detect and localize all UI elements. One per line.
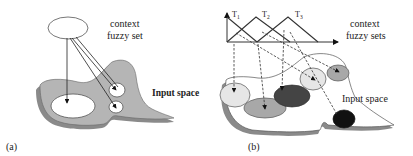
set-label-t3: T3	[295, 10, 303, 20]
cluster-dark-center	[274, 85, 310, 107]
context-fuzzy-set-ellipse	[48, 17, 88, 39]
context-label-b-line2: fuzzy sets	[346, 30, 386, 41]
context-label-b-line1: context	[350, 18, 380, 29]
panel-b-label: (b)	[248, 141, 260, 153]
panel-a: context fuzzy set Input space (a)	[6, 17, 199, 153]
context-label-a-line2: fuzzy set	[107, 30, 143, 41]
panel-a-label: (a)	[6, 141, 17, 153]
fuzzy-set-t2	[227, 17, 290, 42]
cluster-light-left	[220, 83, 250, 107]
context-label-a-line1: context	[110, 18, 140, 29]
large-subset-ellipse	[51, 94, 95, 118]
input-space-label-a: Input space	[152, 88, 199, 98]
set-label-t2: T2	[262, 10, 270, 20]
dashed-arrow-4	[236, 33, 315, 80]
input-space-label-b: Input space	[342, 93, 388, 104]
set-label-t1: T1	[232, 10, 240, 20]
panel-b: T1 T2 T3 context fuzzy sets Input space …	[220, 10, 394, 153]
small-subset-ellipse-2	[109, 101, 123, 113]
diagram-canvas: context fuzzy set Input space (a) T1 T2 …	[0, 0, 413, 156]
fuzzy-set-t3	[257, 17, 318, 42]
